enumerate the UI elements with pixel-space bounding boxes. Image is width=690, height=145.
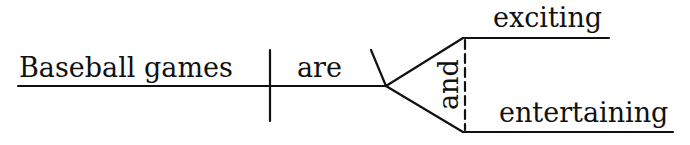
verb-text: are (297, 52, 342, 83)
conjunction-text: and (433, 59, 464, 110)
adjective-1-text: exciting (493, 2, 602, 33)
subject-text: Baseball games (19, 52, 233, 83)
adjective-2-text: entertaining (499, 97, 668, 128)
sentence-diagram: Baseball games are exciting entertaining… (0, 0, 690, 145)
predicate-adjective-slant (371, 50, 386, 86)
